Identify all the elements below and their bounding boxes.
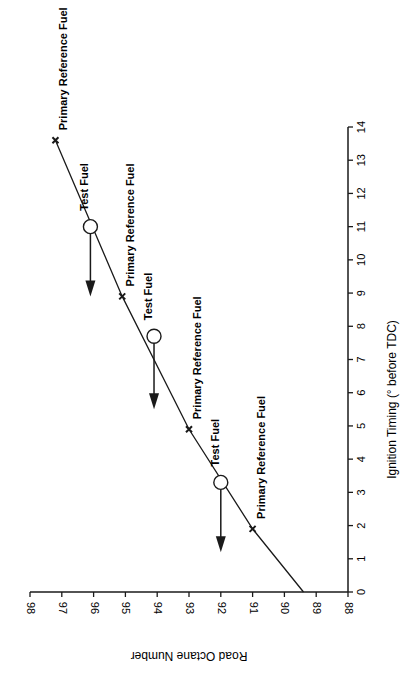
octane-vs-ignition-chart: 8889909192939495969798Road Octane Number… bbox=[0, 0, 412, 676]
ignition-tick-label: 8 bbox=[355, 323, 367, 329]
octane-tick-label: 89 bbox=[311, 602, 323, 614]
prf-label: Primary Reference Fuel bbox=[255, 396, 267, 519]
octane-tick-label: 95 bbox=[120, 602, 132, 614]
test-fuel-label: Test Fuel bbox=[142, 273, 154, 320]
test-fuel-circle-marker bbox=[214, 475, 228, 489]
ignition-tick-label: 10 bbox=[355, 254, 367, 266]
prf-x-marker bbox=[250, 526, 256, 532]
prf-x-marker bbox=[186, 426, 192, 432]
ignition-tick-label: 1 bbox=[355, 556, 367, 562]
octane-tick-label: 91 bbox=[248, 602, 260, 614]
ignition-tick-label: 7 bbox=[355, 356, 367, 362]
ignition-tick-label: 2 bbox=[355, 523, 367, 529]
octane-axis-title: Road Octane Number bbox=[131, 649, 248, 663]
ignition-tick-label: 0 bbox=[355, 589, 367, 595]
octane-tick-label: 88 bbox=[343, 602, 355, 614]
prf-x-marker bbox=[119, 293, 125, 299]
test-fuel-label: Test Fuel bbox=[78, 163, 90, 210]
ignition-tick-label: 13 bbox=[355, 154, 367, 166]
test-fuel-label: Test Fuel bbox=[209, 419, 221, 466]
octane-tick-label: 98 bbox=[25, 602, 37, 614]
octane-tick-label: 94 bbox=[152, 602, 164, 614]
test-fuel-arrowhead-icon bbox=[216, 536, 226, 552]
ignition-tick-label: 14 bbox=[355, 121, 367, 133]
ignition-axis-title: Ignition Timing (° before TDC) bbox=[385, 320, 399, 479]
prf-label: Primary Reference Fuel bbox=[191, 296, 203, 419]
test-fuel-arrowhead-icon bbox=[149, 393, 159, 409]
prf-x-marker bbox=[52, 137, 58, 143]
ignition-tick-label: 3 bbox=[355, 489, 367, 495]
test-fuel-arrowhead-icon bbox=[85, 280, 95, 296]
octane-tick-label: 96 bbox=[89, 602, 101, 614]
ignition-tick-label: 9 bbox=[355, 290, 367, 296]
test-fuel-circle-marker bbox=[147, 329, 161, 343]
prf-label: Primary Reference Fuel bbox=[124, 164, 136, 287]
octane-tick-label: 90 bbox=[279, 602, 291, 614]
prf-curve bbox=[55, 140, 303, 592]
test-fuel-circle-marker bbox=[83, 220, 97, 234]
octane-tick-label: 97 bbox=[57, 602, 69, 614]
octane-tick-label: 93 bbox=[184, 602, 196, 614]
ignition-tick-label: 4 bbox=[355, 456, 367, 462]
ignition-tick-label: 12 bbox=[355, 187, 367, 199]
ignition-tick-label: 5 bbox=[355, 423, 367, 429]
prf-label: Primary Reference Fuel bbox=[57, 7, 69, 130]
ignition-tick-label: 11 bbox=[355, 221, 367, 232]
octane-tick-label: 92 bbox=[216, 602, 228, 614]
ignition-tick-label: 6 bbox=[355, 390, 367, 396]
